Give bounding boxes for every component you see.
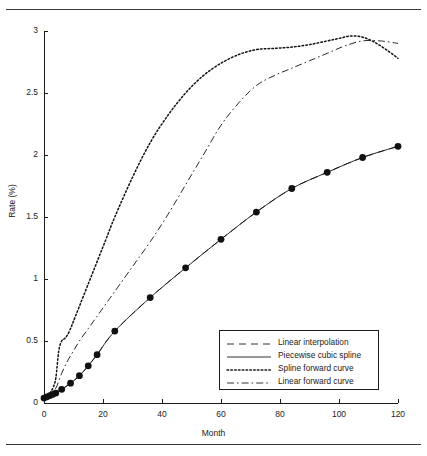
legend-label: Linear interpolation <box>278 337 349 347</box>
legend-item: Linear forward curve <box>220 374 378 387</box>
chart-legend: Linear interpolationPiecewise cubic spli… <box>219 330 379 390</box>
x-axis-tick-label: 40 <box>142 409 182 419</box>
x-axis-tick-label: 0 <box>24 409 64 419</box>
y-axis-title: Rate (%) <box>7 171 17 231</box>
legend-line-sample <box>226 336 272 348</box>
series-marker <box>76 372 83 379</box>
legend-line-sample <box>226 375 272 387</box>
x-axis-tick-label: 100 <box>319 409 359 419</box>
x-axis-tick-label: 60 <box>201 409 241 419</box>
x-axis-tick-label: 20 <box>83 409 123 419</box>
x-axis-title: Month <box>0 428 427 438</box>
y-axis-tick-label: 1 <box>12 273 38 283</box>
series-marker <box>147 294 154 301</box>
x-axis-tick-label: 120 <box>378 409 418 419</box>
series-marker <box>218 236 225 243</box>
y-axis-tick-label: 3 <box>12 25 38 35</box>
series-marker <box>85 362 92 369</box>
legend-label: Spline forward curve <box>278 363 354 373</box>
series-marker <box>111 328 118 335</box>
y-axis-tick-label: 2 <box>12 149 38 159</box>
y-axis-tick-label: 0.5 <box>12 335 38 345</box>
series-marker <box>395 143 402 150</box>
legend-line-sample <box>226 349 272 361</box>
legend-item: Linear interpolation <box>220 335 378 348</box>
legend-label: Piecewise cubic spline <box>278 350 361 360</box>
series-marker <box>359 154 366 161</box>
legend-item: Piecewise cubic spline <box>220 348 378 361</box>
series-marker <box>58 386 65 393</box>
figure-chart-container: 00.511.522.53 020406080100120 Rate (%) M… <box>0 0 427 456</box>
series-marker <box>324 169 331 176</box>
x-axis-tick-label: 80 <box>260 409 300 419</box>
series-marker <box>253 209 260 216</box>
series-marker <box>182 264 189 271</box>
legend-item: Spline forward curve <box>220 361 378 374</box>
y-axis-tick-label: 2.5 <box>12 87 38 97</box>
y-axis-tick-label: 0 <box>12 397 38 407</box>
legend-line-sample <box>226 362 272 374</box>
series-marker <box>52 390 59 397</box>
series-marker <box>67 380 74 387</box>
legend-label: Linear forward curve <box>278 376 354 386</box>
series-marker <box>94 351 101 358</box>
series-marker <box>288 185 295 192</box>
